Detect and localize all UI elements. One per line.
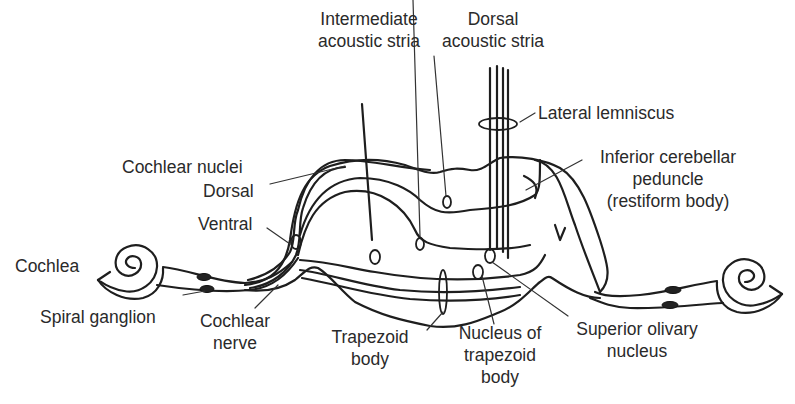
right-cochlea-icon: [717, 259, 782, 313]
label-cochlear-nerve: Cochlear nerve: [190, 310, 280, 354]
lateral-lemniscus-fibers: [362, 66, 508, 258]
label-intermediate-acoustic-stria: Intermediate acoustic stria: [294, 8, 444, 52]
label-trapezoid-body: Trapezoid body: [325, 326, 415, 370]
nucleus-trapezoid-marker: [473, 265, 483, 279]
label-superior-olivary-nucleus: Superior olivary nucleus: [562, 318, 712, 362]
label-nucleus-of-trapezoid-body: Nucleus of trapezoid body: [445, 322, 555, 388]
intermediate-stria-marker: [443, 196, 451, 208]
label-cochlear-nuclei: Cochlear nuclei: [122, 156, 243, 178]
label-lateral-lemniscus: Lateral lemniscus: [538, 102, 674, 124]
intermediate-stria-marker-2: [416, 238, 424, 250]
label-dorsal-acoustic-stria: Dorsal acoustic stria: [433, 8, 553, 52]
spiral-ganglion-upper: [197, 274, 211, 281]
label-inferior-cerebellar-peduncle: Inferior cerebellar peduncle (restiform …: [573, 146, 763, 212]
right-spiral-ganglion-lower: [662, 302, 678, 309]
label-spiral-ganglion: Spiral ganglion: [40, 306, 156, 328]
label-ventral: Ventral: [198, 213, 252, 235]
label-dorsal: Dorsal: [203, 180, 254, 202]
left-sup-olive-marker: [370, 250, 380, 264]
right-cochlear-nerve: [590, 281, 723, 308]
left-cochlea-icon: [98, 245, 163, 299]
right-spiral-ganglion-upper: [665, 287, 681, 294]
auditory-pathway-diagram: Intermediate acoustic stria Dorsal acous…: [0, 0, 795, 404]
label-cochlea: Cochlea: [15, 255, 79, 277]
